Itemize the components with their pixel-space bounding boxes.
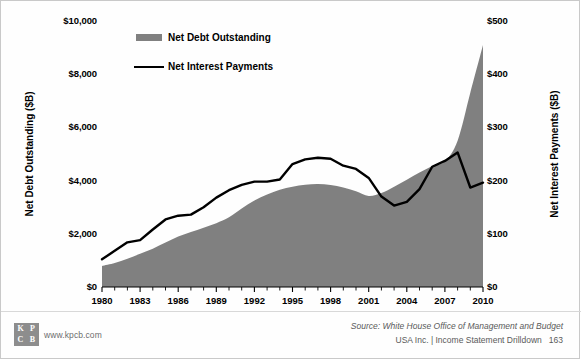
footer-brand: K P C B www.kpcb.com [14, 323, 102, 346]
source-note: Source: White House Office of Management… [351, 321, 563, 331]
x-axis-ticks [102, 287, 483, 292]
x-axis-tick-label-1980: 1980 [91, 296, 112, 306]
left-axis-tick-0: $0 [87, 282, 97, 292]
deck-reference: USA Inc. | Income Statement Drilldown163 [351, 335, 563, 345]
left-axis-tick-6000: $6,000 [69, 122, 97, 132]
footer-credits: Source: White House Office of Management… [351, 321, 563, 345]
chart-area: Net Debt Outstanding ($B) Net Interest P… [1, 1, 581, 313]
deck-title: USA Inc. | Income Statement Drilldown [396, 335, 542, 345]
left-axis-tick-10000: $10,000 [63, 16, 97, 26]
x-axis-tick-label-2007: 2007 [434, 296, 455, 306]
legend-label-net-interest-payments: Net Interest Payments [166, 61, 273, 72]
left-axis-title: Net Debt Outstanding ($B) [24, 92, 35, 217]
left-axis-tick-4000: $4,000 [69, 176, 97, 186]
right-axis-tick-400: $400 [487, 69, 508, 79]
chart-legend: Net Debt Outstanding Net Interest Paymen… [132, 29, 273, 75]
kpcb-logo-letter-c: C [15, 335, 26, 345]
kpcb-logo-letter-p: P [27, 324, 38, 334]
kpcb-logo-letter-b: B [27, 335, 38, 345]
kpcb-website-link[interactable]: www.kpcb.com [44, 330, 102, 340]
line-swatch-icon [132, 66, 166, 68]
x-axis-tick-label-1992: 1992 [244, 296, 265, 306]
x-axis-tick-label-2001: 2001 [358, 296, 379, 306]
left-axis-tick-2000: $2,000 [69, 229, 97, 239]
right-axis-tick-100: $100 [487, 229, 508, 239]
slide-footer: K P C B www.kpcb.com Source: White House… [1, 311, 581, 358]
x-axis-tick-label-1998: 1998 [320, 296, 341, 306]
legend-label-net-debt-outstanding: Net Debt Outstanding [166, 32, 271, 43]
x-axis-tick-label-2004: 2004 [396, 296, 417, 306]
page-number: 163 [549, 335, 563, 345]
x-axis-tick-label-2010: 2010 [472, 296, 493, 306]
kpcb-logo-letter-k: K [15, 324, 26, 334]
right-axis-tick-0: $0 [487, 282, 497, 292]
left-axis-tick-8000: $8,000 [69, 69, 97, 79]
right-axis-tick-200: $200 [487, 176, 508, 186]
legend-item-net-interest-payments: Net Interest Payments [132, 58, 273, 75]
legend-item-net-debt-outstanding: Net Debt Outstanding [132, 29, 273, 46]
x-axis-tick-label-1995: 1995 [282, 296, 303, 306]
right-axis-tick-300: $300 [487, 122, 508, 132]
right-axis-title: Net Interest Payments ($B) [549, 90, 560, 217]
right-axis-tick-500: $500 [487, 16, 508, 26]
kpcb-logo-icon: K P C B [14, 323, 39, 346]
x-axis-tick-label-1989: 1989 [206, 296, 227, 306]
area-swatch-icon [132, 34, 166, 41]
x-axis-tick-label-1983: 1983 [130, 296, 151, 306]
x-axis-tick-label-1986: 1986 [168, 296, 189, 306]
